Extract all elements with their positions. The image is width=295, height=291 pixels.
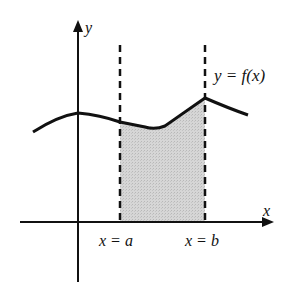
bound-a-label: x = a: [99, 233, 133, 249]
x-axis-label: x: [263, 203, 270, 219]
curve-label: y = f(x): [214, 67, 265, 84]
shaded-area: [120, 98, 205, 222]
y-axis-label: y: [85, 20, 92, 36]
area-under-curve-diagram: y x y = f(x) x = a x = b: [0, 0, 295, 291]
y-axis-arrow-icon: [73, 20, 83, 32]
curve-f: [33, 98, 248, 132]
diagram-graphics: [0, 0, 295, 291]
bound-b-label: x = b: [185, 233, 219, 249]
